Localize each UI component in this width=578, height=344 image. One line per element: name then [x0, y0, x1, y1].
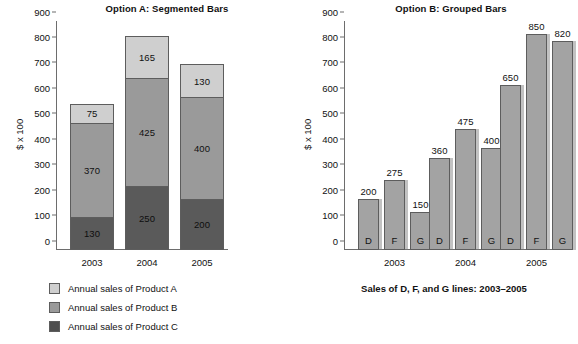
- x-tick-2004: 2004: [125, 250, 169, 268]
- y-tick-200: 200: [20, 185, 56, 195]
- bar-segment-b-2005: 400: [180, 97, 224, 199]
- segment-value-label: 370: [84, 165, 100, 176]
- grouped-bar-2003-F: 275F: [384, 180, 405, 250]
- bar-series-letter: F: [385, 235, 404, 246]
- y-tick-300: 300: [308, 160, 344, 170]
- group-label-2005: 2005: [500, 250, 573, 268]
- grouped-bar-2004-D: 360D: [429, 158, 450, 250]
- group-label-2004: 2004: [429, 250, 502, 268]
- bar-segment-a-2004: 165: [125, 36, 169, 78]
- segment-value-label: 425: [139, 127, 155, 138]
- group-label-2003: 2003: [358, 250, 431, 268]
- grouped-bar-2004-G: 400G: [481, 148, 502, 250]
- chart-panel-option-a: Option A: Segmented Bars $ x 100 0100200…: [0, 0, 290, 344]
- bar-series-letter: D: [359, 235, 378, 246]
- grouped-bar-2003-D: 200D: [358, 199, 379, 250]
- y-tick-500: 500: [20, 109, 56, 119]
- figure-root: Option A: Segmented Bars $ x 100 0100200…: [0, 0, 578, 344]
- legend-swatch-icon: [49, 321, 60, 332]
- bar-value-label: 820: [545, 28, 578, 42]
- segment-value-label: 75: [87, 108, 98, 119]
- bar-value-label: 200: [351, 186, 386, 200]
- bar-value-label: 360: [422, 145, 457, 159]
- bar-series-letter: G: [411, 235, 430, 246]
- bar-segment-b-2004: 425: [125, 78, 169, 186]
- y-tick-600: 600: [20, 83, 56, 93]
- bar-segment-c-2003: 130: [70, 217, 114, 250]
- y-tick-100: 100: [308, 211, 344, 221]
- stacked-bar-2003: 13037075: [70, 104, 114, 250]
- bar-segment-a-2005: 130: [180, 64, 224, 97]
- bar-series-letter: F: [456, 235, 475, 246]
- bar-segment-b-2003: 370: [70, 123, 114, 217]
- y-tick-900: 900: [308, 7, 344, 17]
- segment-value-label: 250: [139, 213, 155, 224]
- y-tick-700: 700: [308, 58, 344, 68]
- x-tick-2003: 2003: [70, 250, 114, 268]
- y-tick-200: 200: [308, 185, 344, 195]
- chart-caption-option-b: Sales of D, F, and G lines: 2003–2005: [288, 283, 578, 294]
- legend-label: Annual sales of Product B: [68, 302, 177, 313]
- y-tick-100: 100: [20, 211, 56, 221]
- bar-series-letter: F: [527, 235, 546, 246]
- y-tick-800: 800: [20, 32, 56, 42]
- bar-series-letter: D: [430, 235, 449, 246]
- bar-value-label: 275: [377, 167, 412, 181]
- legend-label: Annual sales of Product A: [68, 283, 177, 294]
- y-axis-label-option-b: $ x 100: [302, 119, 313, 150]
- segment-value-label: 400: [194, 143, 210, 154]
- grouped-bar-2005-G: 820G: [552, 41, 573, 250]
- legend-item-product-A: Annual sales of Product A: [49, 279, 178, 298]
- bar-segment-c-2005: 200: [180, 199, 224, 250]
- y-tick-800: 800: [308, 32, 344, 42]
- bar-value-label: 475: [448, 116, 483, 130]
- grouped-bar-2003-G: 150G: [410, 212, 431, 250]
- legend-option-a: Annual sales of Product AAnnual sales of…: [49, 279, 178, 336]
- stacked-bar-2004: 250425165: [125, 36, 169, 250]
- y-tick-400: 400: [308, 134, 344, 144]
- y-axis-line-option-a: [56, 21, 57, 250]
- y-tick-700: 700: [20, 58, 56, 68]
- legend-label: Annual sales of Product C: [68, 321, 178, 332]
- bar-series-letter: G: [553, 235, 572, 246]
- x-tick-2005: 2005: [180, 250, 224, 268]
- y-axis-line-option-b: [344, 21, 345, 250]
- grouped-bar-2004-F: 475F: [455, 129, 476, 250]
- bar-segment-c-2004: 250: [125, 186, 169, 250]
- y-tick-900: 900: [20, 7, 56, 17]
- bar-series-letter: G: [482, 235, 501, 246]
- grouped-bar-2005-D: 650D: [500, 85, 521, 250]
- bar-series-letter: D: [501, 235, 520, 246]
- y-tick-600: 600: [308, 83, 344, 93]
- bar-value-label: 650: [493, 72, 528, 86]
- legend-swatch-icon: [49, 302, 60, 313]
- legend-item-product-B: Annual sales of Product B: [49, 298, 178, 317]
- y-tick-0: 0: [20, 236, 56, 246]
- grouped-bar-2005-F: 850F: [526, 34, 547, 250]
- y-tick-400: 400: [20, 134, 56, 144]
- bar-segment-a-2003: 75: [70, 104, 114, 123]
- y-tick-0: 0: [308, 236, 344, 246]
- segment-value-label: 165: [139, 52, 155, 63]
- plot-area-option-a: 0100200300400500600700800900 13037075250…: [56, 21, 222, 250]
- chart-panel-option-b: Option B: Grouped Bars 01002003004005006…: [288, 0, 578, 344]
- y-tick-300: 300: [20, 160, 56, 170]
- plot-area-option-b: 0100200300400500600700800900 200D275F150…: [344, 21, 560, 250]
- segment-value-label: 130: [84, 228, 100, 239]
- segment-value-label: 200: [194, 219, 210, 230]
- legend-swatch-icon: [49, 283, 60, 294]
- stacked-bar-2005: 200400130: [180, 64, 224, 250]
- y-tick-500: 500: [308, 109, 344, 119]
- segment-value-label: 130: [194, 76, 210, 87]
- legend-item-product-C: Annual sales of Product C: [49, 317, 178, 336]
